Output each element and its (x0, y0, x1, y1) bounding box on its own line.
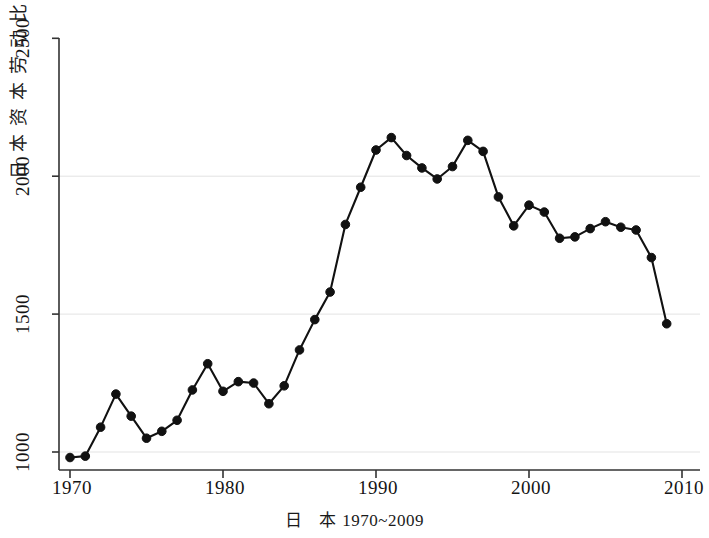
data-line-series-0 (70, 138, 667, 458)
data-point (540, 208, 549, 217)
data-point (433, 175, 442, 184)
data-point-markers (66, 133, 671, 462)
data-point (341, 220, 350, 229)
data-point (127, 412, 136, 421)
data-point (418, 164, 427, 173)
data-point (586, 224, 595, 233)
data-point (81, 452, 90, 461)
data-point (96, 423, 105, 432)
data-point (188, 386, 197, 395)
axis-lines (59, 38, 700, 470)
data-point (265, 399, 274, 408)
data-point (112, 390, 121, 399)
caption-country: 日 本 (285, 510, 342, 530)
data-point (280, 382, 289, 391)
data-point (234, 377, 243, 386)
chart-figure: 比 动 劳 本 资 本 日 2500 2000 1500 1000 1970 1… (0, 0, 709, 538)
data-point (158, 427, 167, 436)
data-point (311, 315, 320, 324)
data-point (555, 234, 564, 243)
data-point (326, 288, 335, 297)
data-point (525, 201, 534, 210)
data-point (464, 136, 473, 145)
data-point (617, 223, 626, 232)
data-point (219, 387, 228, 396)
data-point (249, 379, 258, 388)
axis-ticks (52, 38, 682, 478)
data-point (571, 233, 580, 242)
chart-plot-area (0, 0, 709, 538)
data-point (173, 416, 182, 425)
data-point (203, 359, 212, 368)
data-point (402, 151, 411, 160)
data-point (142, 434, 151, 443)
data-point (356, 183, 365, 192)
data-point (632, 226, 641, 235)
data-point (662, 319, 671, 328)
data-point (448, 162, 457, 171)
data-point (494, 193, 503, 202)
caption-year-range: 1970~2009 (342, 511, 424, 530)
data-point (647, 253, 656, 262)
data-point (509, 222, 518, 231)
data-point (295, 346, 304, 355)
figure-caption: 日 本1970~2009 (0, 506, 709, 531)
data-point (601, 217, 610, 226)
data-point (479, 147, 488, 156)
data-point (372, 146, 381, 155)
data-point (66, 453, 75, 462)
data-point (387, 133, 396, 142)
